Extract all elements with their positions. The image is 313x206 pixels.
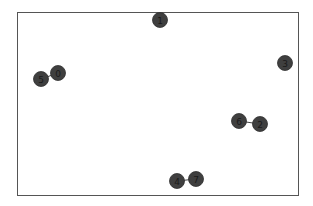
node-label: 1	[157, 16, 163, 26]
node-label: 0	[55, 69, 61, 79]
graph-node-2: 2	[253, 117, 268, 132]
edges-layer	[41, 73, 260, 181]
nodes-layer: 01234567	[34, 13, 293, 189]
graph-node-5: 5	[34, 72, 49, 87]
network-graph: 01234567	[0, 0, 313, 206]
graph-node-4: 4	[170, 174, 185, 189]
graph-node-0: 0	[51, 66, 66, 81]
node-label: 6	[236, 117, 242, 127]
graph-node-6: 6	[232, 114, 247, 129]
node-label: 3	[282, 59, 288, 69]
plot-frame	[18, 13, 299, 196]
graph-node-7: 7	[189, 172, 204, 187]
node-label: 5	[38, 75, 44, 85]
node-label: 4	[174, 177, 180, 187]
node-label: 2	[257, 120, 263, 130]
node-label: 7	[193, 175, 199, 185]
graph-node-1: 1	[153, 13, 168, 28]
graph-node-3: 3	[278, 56, 293, 71]
